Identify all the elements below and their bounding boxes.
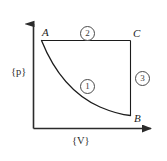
point-label-c: C: [133, 28, 140, 39]
process-1-curve-ab: [42, 41, 131, 116]
process-marker-3: 3: [135, 71, 150, 86]
x-axis-label: {V}: [72, 136, 90, 147]
process-marker-2: 2: [80, 26, 95, 41]
y-axis-label: {p}: [11, 67, 26, 78]
process-marker-1: 1: [80, 79, 95, 94]
pv-diagram-figure: A C B {p} {V} 2 1 3: [0, 0, 167, 161]
point-label-a: A: [42, 27, 49, 38]
point-label-b: B: [134, 113, 141, 124]
